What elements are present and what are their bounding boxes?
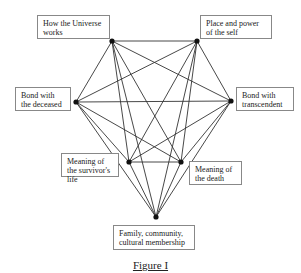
edge-D-E bbox=[129, 101, 231, 162]
edge-A-D bbox=[112, 41, 231, 101]
edge-F-G bbox=[156, 162, 181, 217]
node-label-meaning-survivor-life: Meaning of the survivor's life bbox=[61, 153, 119, 177]
node-label-how-universe-works: How the Universe works bbox=[37, 15, 110, 39]
figure-caption: Figure I bbox=[0, 259, 301, 271]
node-dot-F bbox=[178, 159, 183, 164]
node-label-bond-deceased: Bond with the deceased bbox=[15, 87, 71, 111]
node-label-place-power-self: Place and power of the self bbox=[200, 15, 272, 39]
node-label-bond-transcendent: Bond with transcendent bbox=[236, 87, 294, 111]
node-label-family-community: Family, community, cultural membership bbox=[113, 225, 195, 250]
node-dot-E bbox=[126, 159, 131, 164]
edge-E-G bbox=[129, 162, 156, 217]
node-dot-D bbox=[228, 98, 233, 103]
edge-D-F bbox=[181, 101, 231, 162]
node-dot-G bbox=[153, 214, 158, 219]
edge-C-D bbox=[76, 101, 231, 102]
node-dot-C bbox=[73, 99, 78, 104]
node-dot-B bbox=[194, 38, 199, 43]
edge-D-G bbox=[156, 101, 231, 217]
node-dot-A bbox=[109, 38, 114, 43]
edge-A-G bbox=[112, 41, 156, 217]
node-label-meaning-death: Meaning of the death bbox=[189, 161, 242, 185]
